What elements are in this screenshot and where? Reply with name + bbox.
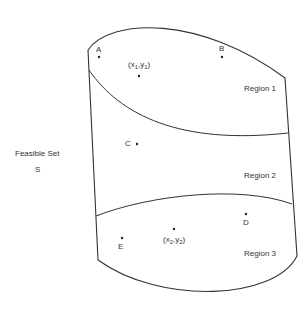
divider-region-1-2 — [89, 70, 288, 136]
x1y1-sub2: 1 — [144, 64, 147, 70]
point-x1y1 — [138, 75, 140, 77]
x1y1-open: (x — [128, 60, 135, 69]
region-2-label: Region 2 — [244, 172, 276, 180]
point-C — [136, 143, 138, 145]
set-symbol-label: S — [35, 166, 40, 174]
point-B — [221, 56, 223, 58]
divider-region-2-3 — [96, 194, 292, 216]
point-E — [121, 237, 123, 239]
point-A — [98, 56, 100, 58]
x1y1-sub1: 1 — [135, 64, 138, 70]
x2y2-sub1: 2 — [170, 239, 173, 245]
label-C: C — [125, 140, 131, 148]
label-B: B — [219, 45, 224, 53]
feasible-set-label: Feasible Set — [15, 150, 59, 158]
region-3-label: Region 3 — [244, 250, 276, 258]
label-A: A — [96, 46, 101, 54]
x2y2-sub2: 2 — [179, 239, 182, 245]
label-x1y1: (x1,y1) — [128, 61, 150, 69]
label-E: E — [118, 243, 123, 251]
region-1-label: Region 1 — [244, 85, 276, 93]
point-D — [245, 213, 247, 215]
label-x2y2: (x2,y2) — [163, 236, 185, 244]
x2y2-open: (x — [163, 235, 170, 244]
label-D: D — [243, 219, 249, 227]
point-x2y2 — [173, 228, 175, 230]
